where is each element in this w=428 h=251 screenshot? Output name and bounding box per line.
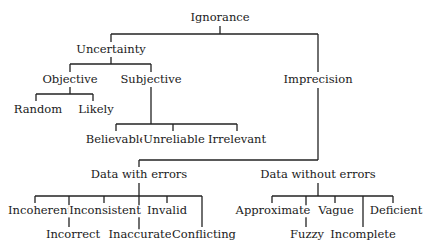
node-incorrect: Incorrect	[45, 229, 101, 241]
node-inconsistent: Inconsistent	[68, 205, 142, 217]
node-fuzzy: Fuzzy	[289, 229, 325, 241]
node-approximate: Approximate	[235, 205, 312, 217]
node-unreliable: Unreliable	[142, 134, 205, 146]
node-random: Random	[13, 104, 63, 116]
node-imprecision: Imprecision	[282, 74, 353, 86]
node-uncertainty: Uncertainty	[75, 44, 147, 56]
node-believable: Believable	[85, 134, 148, 146]
node-inaccurate: Inaccurate	[108, 229, 173, 241]
node-invalid: Invalid	[146, 205, 188, 217]
node-likely: Likely	[77, 104, 114, 116]
node-subjective: Subjective	[119, 74, 182, 86]
node-irrelevant: Irrelevant	[207, 134, 267, 146]
node-incoherent: Incoherent	[7, 205, 73, 217]
node-deficient: Deficient	[369, 205, 424, 217]
ignorance-taxonomy-diagram: Ignorance Uncertainty Imprecision Object…	[0, 0, 428, 251]
node-data-without-errors: Data without errors	[259, 169, 377, 181]
node-incomplete: Incomplete	[329, 229, 397, 241]
node-vague: Vague	[317, 205, 355, 217]
node-data-with-errors: Data with errors	[90, 169, 189, 181]
node-objective: Objective	[41, 74, 98, 86]
node-conflicting: Conflicting	[171, 229, 237, 241]
node-ignorance: Ignorance	[189, 12, 250, 24]
